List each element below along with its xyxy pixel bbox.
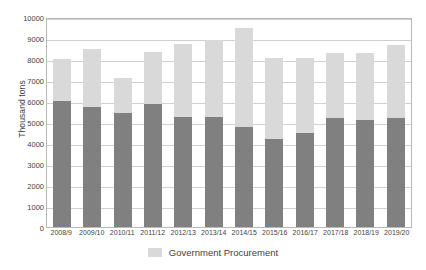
y-tick-label: 0: [4, 224, 44, 233]
x-tick-label: 2013/14: [199, 229, 229, 236]
y-tick-label: 7000: [4, 77, 44, 86]
x-tick-label: 2008/9: [46, 229, 76, 236]
bar-column: [77, 19, 107, 227]
y-tick-label: 9000: [4, 35, 44, 44]
bar-segment-other: [296, 133, 314, 228]
y-tick-label: 8000: [4, 56, 44, 65]
bar-segment-other: [387, 118, 405, 227]
bar-segment-government-procurement: [114, 78, 132, 113]
bar-segment-other: [326, 118, 344, 227]
bar-segment-other: [144, 104, 162, 227]
x-tick-label: 2015/16: [260, 229, 290, 236]
y-tick-label: 2000: [4, 182, 44, 191]
y-tick-label: 4000: [4, 140, 44, 149]
x-tick-label: 2014/15: [229, 229, 259, 236]
bar-column: [168, 19, 198, 227]
bar-column: [381, 19, 411, 227]
bar-segment-other: [83, 107, 101, 227]
x-axis-tick-labels: 2008/92009/102010/112011/122012/132013/1…: [46, 229, 412, 245]
bar-column: [199, 19, 229, 227]
bar-segment-other: [265, 139, 283, 227]
legend-swatch-government-procurement: [148, 248, 162, 257]
bar-column: [320, 19, 350, 227]
x-tick-label: 2011/12: [138, 229, 168, 236]
bar-segment-government-procurement: [174, 44, 192, 116]
bar-segment-government-procurement: [387, 45, 405, 117]
bar-segment-government-procurement: [296, 58, 314, 133]
bar-column: [47, 19, 77, 227]
bar-segment-other: [114, 113, 132, 227]
bar-segment-other: [53, 101, 71, 227]
y-axis-title: Thousand tons: [17, 49, 27, 169]
bar-group: [47, 19, 411, 227]
bar-segment-government-procurement: [326, 53, 344, 118]
bar-column: [138, 19, 168, 227]
bar-segment-other: [235, 127, 253, 227]
y-tick-label: 6000: [4, 98, 44, 107]
bar-segment-government-procurement: [356, 53, 374, 120]
legend-label-government-procurement: Government Procurement: [169, 247, 278, 258]
plot-area: [46, 18, 412, 228]
bar-column: [350, 19, 380, 227]
bar-segment-government-procurement: [53, 59, 71, 101]
bar-segment-government-procurement: [265, 58, 283, 139]
y-tick-label: 3000: [4, 161, 44, 170]
stacked-bar-chart: Thousand tons 01000200030004000500060007…: [0, 0, 426, 270]
x-tick-label: 2009/10: [77, 229, 107, 236]
bar-column: [229, 19, 259, 227]
x-tick-label: 2016/17: [290, 229, 320, 236]
bar-segment-other: [356, 120, 374, 227]
bar-segment-other: [174, 117, 192, 227]
x-tick-label: 2018/19: [351, 229, 381, 236]
bar-column: [259, 19, 289, 227]
bar-segment-other: [205, 117, 223, 227]
bar-segment-government-procurement: [83, 49, 101, 108]
x-tick-label: 2010/11: [107, 229, 137, 236]
bar-segment-government-procurement: [235, 28, 253, 128]
x-tick-label: 2017/18: [321, 229, 351, 236]
y-tick-label: 10000: [4, 14, 44, 23]
y-tick-label: 5000: [4, 119, 44, 128]
y-tick-label: 1000: [4, 203, 44, 212]
bar-segment-government-procurement: [205, 40, 223, 117]
x-tick-label: 2019/20: [382, 229, 412, 236]
bar-column: [108, 19, 138, 227]
bar-column: [290, 19, 320, 227]
x-tick-label: 2012/13: [168, 229, 198, 236]
legend: Government Procurement: [0, 247, 426, 258]
bar-segment-government-procurement: [144, 52, 162, 105]
